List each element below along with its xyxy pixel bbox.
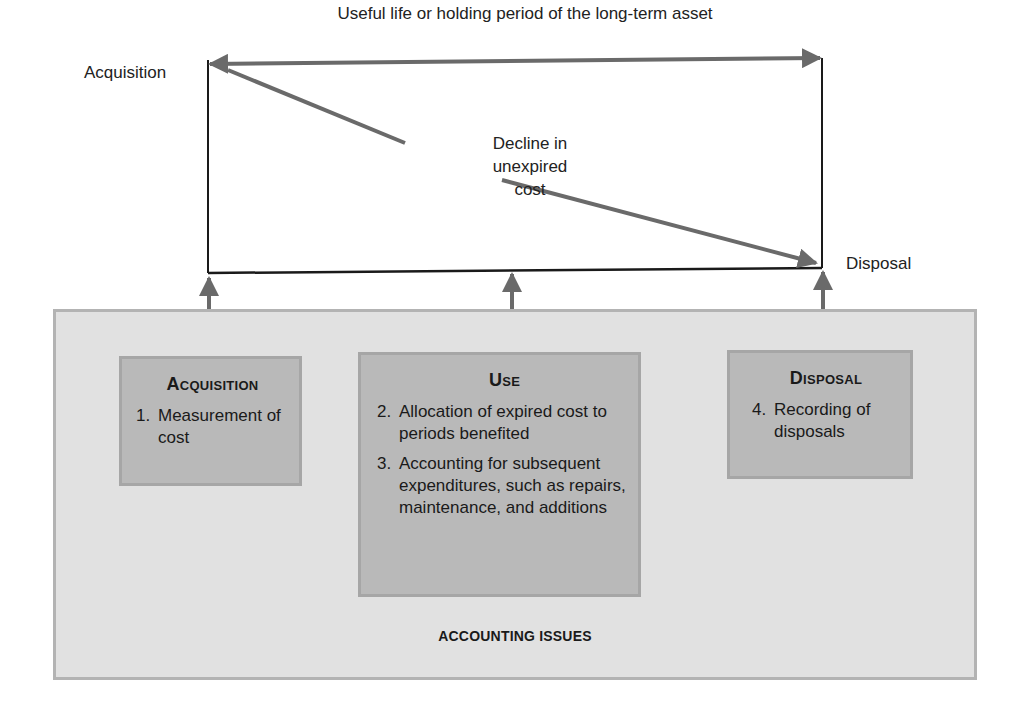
issue-text: Allocation of expired cost to periods be… bbox=[399, 401, 632, 445]
acquisition-box: Acquisition 1. Measurement of cost bbox=[119, 356, 302, 486]
acquisition-point-label: Acquisition bbox=[84, 63, 166, 83]
issue-text: Measurement of cost bbox=[158, 405, 289, 449]
issue-item: 4. Recording of disposals bbox=[752, 399, 900, 443]
use-box: Use 2. Allocation of expired cost to per… bbox=[358, 352, 641, 597]
issue-item: 3. Accounting for subsequent expenditure… bbox=[377, 453, 632, 519]
disposal-box: Disposal 4. Recording of disposals bbox=[727, 350, 913, 479]
useful-life-caption: Useful life or holding period of the lon… bbox=[200, 4, 850, 24]
decline-label: Decline in unexpired cost bbox=[440, 132, 620, 201]
decline-label-line: Decline in bbox=[440, 132, 620, 155]
decline-line-upper bbox=[228, 70, 405, 143]
disposal-box-title: Disposal bbox=[752, 367, 900, 389]
issue-text: Recording of disposals bbox=[774, 399, 900, 443]
use-box-title: Use bbox=[377, 369, 632, 391]
issue-number: 1. bbox=[136, 405, 158, 449]
decline-label-line: cost bbox=[440, 178, 620, 201]
decline-label-line: unexpired bbox=[440, 155, 620, 178]
issue-number: 4. bbox=[752, 399, 774, 443]
accounting-issues-title: ACCOUNTING ISSUES bbox=[53, 628, 977, 644]
issue-number: 2. bbox=[377, 401, 399, 445]
acquisition-box-title: Acquisition bbox=[136, 373, 289, 395]
issue-item: 2. Allocation of expired cost to periods… bbox=[377, 401, 632, 445]
useful-life-double-arrow bbox=[210, 58, 820, 64]
disposal-point-label: Disposal bbox=[846, 254, 911, 274]
issue-text: Accounting for subsequent expenditures, … bbox=[399, 453, 632, 519]
issue-item: 1. Measurement of cost bbox=[136, 405, 289, 449]
issue-number: 3. bbox=[377, 453, 399, 519]
